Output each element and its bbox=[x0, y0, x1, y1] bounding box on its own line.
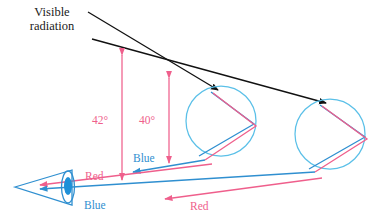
observer-eye bbox=[15, 170, 75, 205]
upper-droplet-red-path bbox=[205, 93, 256, 160]
blue-label-upper: Blue bbox=[133, 152, 155, 165]
emergent-rays-to-eye bbox=[40, 160, 322, 199]
red-label-upper: Red bbox=[85, 170, 104, 183]
lower-droplet-red-path bbox=[315, 106, 367, 172]
red-label-lower: Red bbox=[190, 200, 209, 213]
raindrop-upper-circle bbox=[186, 86, 256, 156]
eye-pupil bbox=[64, 177, 72, 195]
upper-droplet-internal-rays bbox=[199, 92, 256, 160]
raindrop-lower-circle bbox=[295, 99, 365, 169]
visible-radiation-label: Visible radiation bbox=[14, 5, 90, 33]
diagram-canvas bbox=[0, 0, 371, 221]
rainbow-formation-diagram: Visible radiation 42° 40° Blue Red Blue … bbox=[0, 0, 371, 221]
angle-label-42: 42° bbox=[92, 114, 108, 127]
incident-ray-lower bbox=[92, 39, 326, 103]
lower-droplet-internal-rays bbox=[309, 105, 367, 172]
incident-ray-upper bbox=[88, 12, 218, 90]
lower-droplet-blue-path bbox=[309, 105, 365, 169]
angle-label-40: 40° bbox=[139, 114, 155, 127]
blue-label-lower: Blue bbox=[84, 199, 106, 212]
red-ray-lower-droplet bbox=[165, 178, 322, 199]
